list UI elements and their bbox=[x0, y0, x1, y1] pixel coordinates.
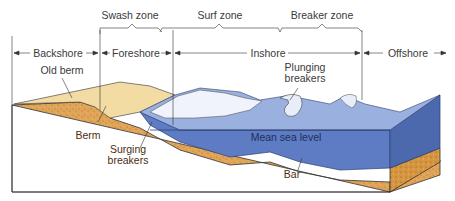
mean-sea-level-label: Mean sea level bbox=[251, 131, 322, 143]
offshore-label: Offshore bbox=[388, 47, 428, 59]
surging-breakers-label-line2: breakers bbox=[108, 154, 149, 166]
swash-zone-label: Swash zone bbox=[101, 9, 158, 21]
surf-zone-brace bbox=[160, 24, 280, 32]
backshore-label: Backshore bbox=[33, 47, 83, 59]
berm-label: Berm bbox=[75, 129, 100, 141]
foreshore-label: Foreshore bbox=[112, 47, 160, 59]
plunging-breakers-label-line2: breakers bbox=[285, 72, 326, 84]
breaker-zone-label: Breaker zone bbox=[291, 9, 354, 21]
old-berm-label: Old berm bbox=[40, 64, 83, 76]
inshore-label: Inshore bbox=[250, 47, 285, 59]
bar-label: Bar bbox=[284, 168, 301, 180]
swash-zone-brace bbox=[100, 24, 162, 34]
surf-zone-label: Surf zone bbox=[198, 9, 243, 21]
breaker-zone-brace bbox=[280, 24, 362, 32]
diagram-canvas: Swash zone Surf zone Breaker zone Backsh… bbox=[0, 0, 455, 201]
beach-profile-diagram: Swash zone Surf zone Breaker zone Backsh… bbox=[0, 0, 455, 201]
